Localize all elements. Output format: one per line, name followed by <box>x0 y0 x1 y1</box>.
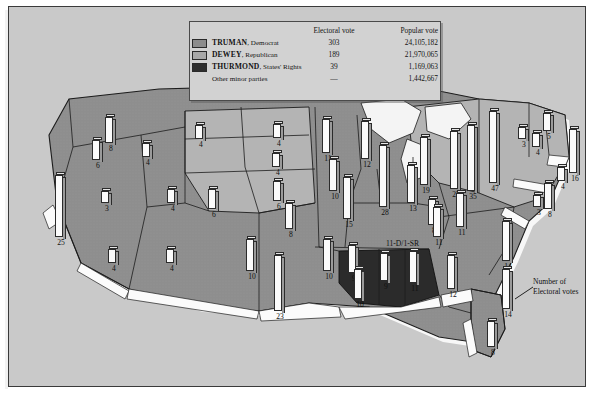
bar-side <box>458 133 461 191</box>
bar-column <box>569 129 577 173</box>
bar-cap <box>558 164 567 167</box>
other-parties-label: Other minor parties <box>212 75 268 83</box>
thurmond-electoral: 39 <box>304 61 365 73</box>
thurmond-popular: 1,169,063 <box>364 61 440 73</box>
bar-cap <box>408 162 417 165</box>
bar-cap <box>274 178 283 181</box>
bar-column <box>322 119 330 153</box>
bar-value-label: 4 <box>192 140 210 149</box>
bar-value-label: 10 <box>326 192 344 201</box>
bar-value-label: 15 <box>340 220 358 229</box>
bar-column <box>407 165 415 203</box>
bar-side <box>388 255 391 283</box>
bar-value-label: 6 <box>205 210 223 219</box>
bar-cap <box>247 236 256 239</box>
bar-cap <box>490 108 499 111</box>
bar-side <box>337 161 340 193</box>
bar-cap <box>56 172 65 175</box>
bar-value-label: 8 <box>282 230 300 239</box>
bar-cap <box>143 140 152 143</box>
bar-value-label: 10 <box>320 272 338 281</box>
bar-side <box>417 253 420 285</box>
bar-value-label: 11 <box>453 228 471 237</box>
legend-header-blank <box>190 25 210 37</box>
bar-column <box>447 255 455 289</box>
legend-box: Electoral vote Popular vote TRUMAN, Demo… <box>189 21 441 101</box>
bar-side <box>174 251 177 265</box>
thurmond-name: THURMOND <box>212 62 260 71</box>
truman-swatch <box>192 39 207 48</box>
bar-side <box>281 126 284 140</box>
bar-cap <box>380 142 389 145</box>
bar-side <box>203 127 206 141</box>
bar-cap <box>344 174 353 177</box>
bar-cap <box>503 218 512 221</box>
bar-cap <box>273 150 282 153</box>
bar-side <box>540 135 543 149</box>
bar-column <box>543 113 551 131</box>
legend-row: TRUMAN, Democrat 303 24,105,182 <box>190 37 440 49</box>
legend-row: THURMOND, States' Rights 39 1,169,063 <box>190 61 440 73</box>
bar-column <box>532 133 540 147</box>
other-swatch-cell <box>190 73 210 85</box>
bar-side <box>351 179 354 221</box>
dewey-swatch <box>192 51 207 60</box>
bar-side <box>577 131 580 175</box>
bar-cap <box>429 196 438 199</box>
bar-column <box>450 131 458 189</box>
bar-side <box>369 123 372 161</box>
bar-column <box>487 321 495 347</box>
bar-column <box>456 193 464 227</box>
bar-column <box>285 203 293 229</box>
bar-cap <box>286 200 295 203</box>
bar-column <box>467 125 475 191</box>
bar-column <box>489 111 497 183</box>
bar-cap <box>448 252 457 255</box>
bar-side <box>497 113 500 185</box>
bar-column <box>92 140 100 160</box>
bar-value-label: 28 <box>376 208 394 217</box>
thurmond-swatch <box>192 63 207 72</box>
legend-header-candidate <box>210 25 304 37</box>
bar-side <box>150 145 153 159</box>
thurmond-swatch-cell <box>190 61 210 73</box>
bar-value-label: 3 <box>530 208 548 217</box>
truman-popular: 24,105,182 <box>364 37 440 49</box>
bar-cap <box>519 124 528 127</box>
key-leader-line <box>509 285 535 301</box>
bar-column <box>420 137 428 185</box>
bar-cap <box>362 118 371 121</box>
bar-value-label: 11 <box>406 284 424 293</box>
bar-column <box>354 269 362 299</box>
bar-column <box>343 177 351 219</box>
bar-value-label: 4 <box>270 139 288 148</box>
thurmond-name-cell: THURMOND, States' Rights <box>210 61 304 73</box>
bar-column <box>533 195 541 207</box>
legend-header-electoral: Electoral vote <box>304 25 365 37</box>
bar-column <box>379 145 387 207</box>
bar-cap <box>533 130 542 133</box>
bar-column <box>433 207 441 237</box>
bar-side <box>331 241 334 273</box>
bar-column <box>108 249 116 263</box>
bar-cap <box>534 192 543 195</box>
bar-value-label: 4 <box>163 264 181 273</box>
bar-side <box>510 223 513 263</box>
bar-column <box>409 251 417 283</box>
dewey-electoral: 189 <box>304 49 365 61</box>
bar-column <box>208 189 216 209</box>
bar-cap <box>355 266 364 269</box>
bar-cap <box>168 186 177 189</box>
other-electoral: — <box>304 73 365 85</box>
other-name-cell: Other minor parties <box>210 73 304 85</box>
bar-cap <box>102 188 111 191</box>
bar-side <box>282 257 285 313</box>
legend-table: Electoral vote Popular vote TRUMAN, Demo… <box>190 25 440 85</box>
bar-value-label: 11 <box>430 238 448 247</box>
legend-header-row: Electoral vote Popular vote <box>190 25 440 37</box>
bar-cap <box>106 114 115 117</box>
bar-cap <box>196 122 205 125</box>
thurmond-party: , States' Rights <box>260 63 302 71</box>
bar-column <box>380 253 388 281</box>
bar-column <box>323 239 331 271</box>
